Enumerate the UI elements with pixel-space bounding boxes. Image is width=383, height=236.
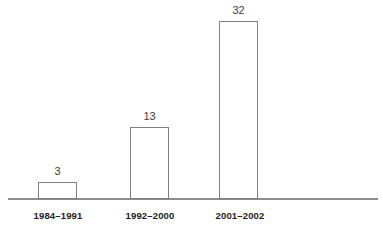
bar-group-1[interactable]: 13 xyxy=(130,110,169,199)
bar-1[interactable] xyxy=(130,127,169,199)
bar-group-2[interactable]: 32 xyxy=(219,4,258,199)
bar-chart: 3 13 32 1984–1991 1992–2000 2001–2002 xyxy=(0,0,383,236)
bar-value-label-0: 3 xyxy=(54,165,60,178)
plot-area: 3 13 32 1984–1991 1992–2000 2001–2002 xyxy=(0,0,383,236)
bar-group-0[interactable]: 3 xyxy=(38,165,77,199)
bar-value-label-1: 13 xyxy=(143,110,155,123)
bar-value-label-2: 32 xyxy=(232,4,244,17)
bar-2[interactable] xyxy=(219,21,258,199)
bar-0[interactable] xyxy=(38,182,77,199)
category-label-2: 2001–2002 xyxy=(180,210,300,221)
